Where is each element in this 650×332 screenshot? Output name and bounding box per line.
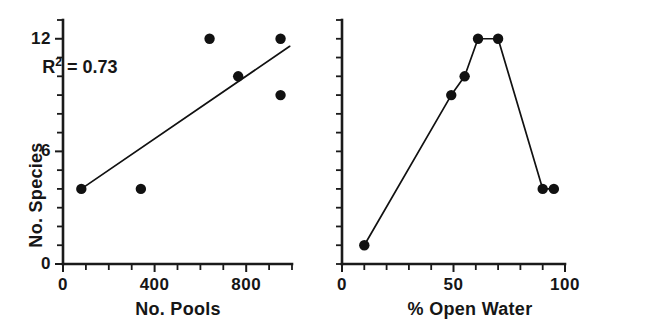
x-axis-tick-label: 50 — [444, 275, 464, 295]
y-axis-tick-label: 12 — [31, 29, 51, 49]
data-point — [538, 184, 548, 194]
panel-open-water: % Open Water 050100 — [320, 0, 650, 332]
x-axis-tick-label: 100 — [550, 275, 580, 295]
series-line — [364, 39, 554, 245]
y-axis-tick-label: 0 — [41, 254, 51, 274]
r-squared-annotation: R2 = 0.73 — [42, 55, 117, 78]
data-point — [136, 184, 146, 194]
x-axis-tick-label: 0 — [58, 275, 68, 295]
x-axis-tick-label: 400 — [140, 275, 170, 295]
x-axis-title: % Open Water — [408, 299, 533, 320]
data-point — [359, 240, 369, 250]
data-point — [459, 71, 469, 81]
x-axis-title: No. Pools — [135, 299, 221, 320]
data-point — [204, 34, 214, 44]
data-point — [473, 34, 483, 44]
r-squared-value: = 0.73 — [62, 57, 118, 77]
data-point — [76, 184, 86, 194]
r-squared-symbol: R — [42, 57, 55, 77]
data-point — [549, 184, 559, 194]
line-plot-canvas — [320, 0, 650, 332]
data-point — [446, 90, 456, 100]
panel-no-pools: No. Species No. Pools R2 = 0.73 04008000… — [0, 0, 330, 332]
data-point — [275, 34, 285, 44]
figure-container: No. Species No. Pools R2 = 0.73 04008000… — [0, 0, 650, 332]
data-point — [275, 90, 285, 100]
y-axis-tick-label: 6 — [41, 141, 51, 161]
x-axis-tick-label: 800 — [231, 275, 261, 295]
data-point — [493, 34, 503, 44]
r-squared-exponent: 2 — [55, 55, 62, 69]
x-axis-tick-label: 0 — [337, 275, 347, 295]
data-point — [233, 71, 243, 81]
